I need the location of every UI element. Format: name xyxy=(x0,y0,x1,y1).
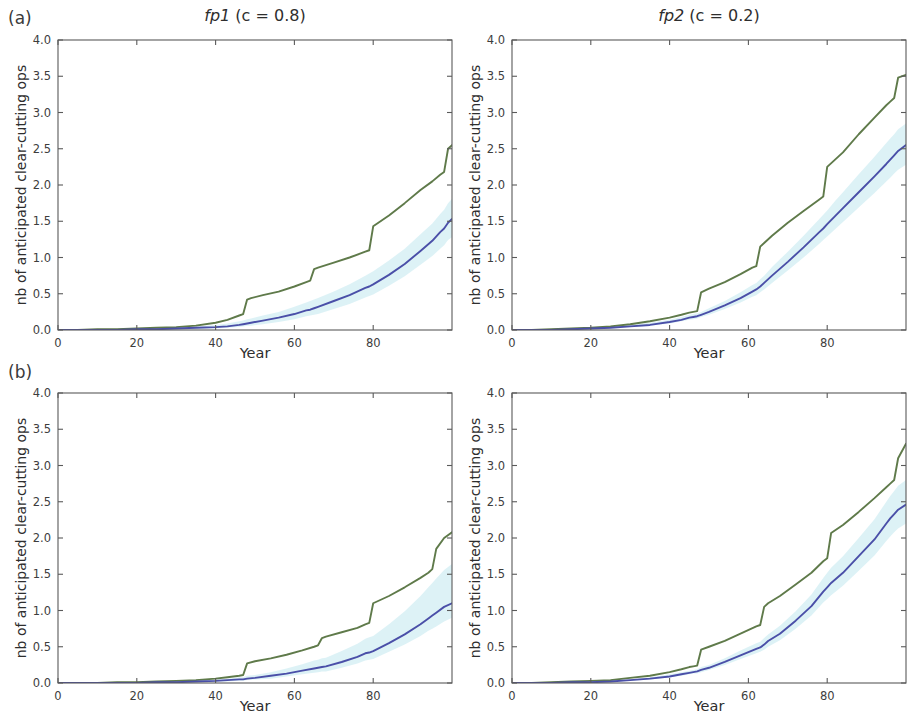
y-tick-label: 3.5 xyxy=(487,422,505,436)
x-tick-label: 40 xyxy=(662,689,677,703)
x-tick-label: 80 xyxy=(366,336,381,350)
x-axis-title: Year xyxy=(693,698,725,714)
column-title-fp1-params: (c = 0.8) xyxy=(230,6,305,25)
x-axis-title: Year xyxy=(693,345,725,361)
x-tick-label: 0 xyxy=(54,689,61,703)
y-tick-label: 2.5 xyxy=(33,495,51,509)
y-tick-label: 0.0 xyxy=(33,676,51,690)
x-axis-title: Year xyxy=(239,345,271,361)
x-tick-label: 0 xyxy=(508,689,515,703)
y-tick-label: 1.5 xyxy=(487,214,505,228)
y-tick-label: 4.0 xyxy=(487,386,505,400)
y-tick-label: 0.5 xyxy=(487,287,505,301)
figure-canvas: (a) (b) fp1 (c = 0.8) fp2 (c = 0.2) 0.00… xyxy=(0,0,913,721)
y-tick-label: 2.0 xyxy=(487,178,505,192)
y-tick-label: 2.0 xyxy=(33,531,51,545)
y-axis-title: nb of anticipated clear-cutting ops xyxy=(13,65,29,306)
x-tick-label: 20 xyxy=(583,336,598,350)
y-tick-label: 4.0 xyxy=(33,33,51,47)
x-tick-label: 80 xyxy=(820,689,835,703)
x-tick-label: 60 xyxy=(287,336,302,350)
column-title-fp2-params: (c = 0.2) xyxy=(684,6,759,25)
y-tick-label: 3.0 xyxy=(487,459,505,473)
x-tick-label: 60 xyxy=(741,689,756,703)
x-tick-label: 60 xyxy=(741,336,756,350)
y-tick-label: 1.5 xyxy=(33,567,51,581)
x-tick-label: 80 xyxy=(820,336,835,350)
y-tick-label: 3.5 xyxy=(33,422,51,436)
y-tick-label: 3.0 xyxy=(487,106,505,120)
y-tick-label: 1.0 xyxy=(487,604,505,618)
y-tick-label: 2.5 xyxy=(487,495,505,509)
y-tick-label: 4.0 xyxy=(33,386,51,400)
x-axis-title: Year xyxy=(239,698,271,714)
y-tick-label: 3.0 xyxy=(33,459,51,473)
x-tick-label: 80 xyxy=(366,689,381,703)
y-tick-label: 0.5 xyxy=(487,640,505,654)
panel-letter-b: (b) xyxy=(8,362,32,382)
column-title-fp2: fp2 (c = 0.2) xyxy=(658,6,759,25)
y-axis-title: nb of anticipated clear-cutting ops xyxy=(467,418,483,659)
y-tick-label: 2.5 xyxy=(33,142,51,156)
y-tick-label: 0.0 xyxy=(33,323,51,337)
x-tick-label: 20 xyxy=(583,689,598,703)
column-title-fp1-name: fp1 xyxy=(204,6,230,25)
panel-letter-a: (a) xyxy=(8,8,32,28)
y-axis-title: nb of anticipated clear-cutting ops xyxy=(467,65,483,306)
y-tick-label: 0.0 xyxy=(487,676,505,690)
y-tick-label: 3.5 xyxy=(487,69,505,83)
y-tick-label: 3.0 xyxy=(33,106,51,120)
y-tick-label: 0.5 xyxy=(33,640,51,654)
y-tick-label: 1.0 xyxy=(33,251,51,265)
x-tick-label: 20 xyxy=(129,689,144,703)
x-tick-label: 40 xyxy=(208,689,223,703)
x-tick-label: 20 xyxy=(129,336,144,350)
y-tick-label: 0.5 xyxy=(33,287,51,301)
x-tick-label: 40 xyxy=(208,336,223,350)
x-tick-label: 0 xyxy=(54,336,61,350)
column-title-fp2-name: fp2 xyxy=(658,6,684,25)
y-tick-label: 2.5 xyxy=(487,142,505,156)
y-tick-label: 1.0 xyxy=(487,251,505,265)
y-tick-label: 1.0 xyxy=(33,604,51,618)
y-tick-label: 0.0 xyxy=(487,323,505,337)
y-tick-label: 2.0 xyxy=(487,531,505,545)
y-tick-label: 4.0 xyxy=(487,33,505,47)
y-tick-label: 2.0 xyxy=(33,178,51,192)
y-tick-label: 1.5 xyxy=(487,567,505,581)
column-title-fp1: fp1 (c = 0.8) xyxy=(204,6,305,25)
x-tick-label: 0 xyxy=(508,336,515,350)
y-axis-title: nb of anticipated clear-cutting ops xyxy=(13,418,29,659)
y-tick-label: 3.5 xyxy=(33,69,51,83)
x-tick-label: 40 xyxy=(662,336,677,350)
figure-background xyxy=(0,0,913,721)
y-tick-label: 1.5 xyxy=(33,214,51,228)
x-tick-label: 60 xyxy=(287,689,302,703)
